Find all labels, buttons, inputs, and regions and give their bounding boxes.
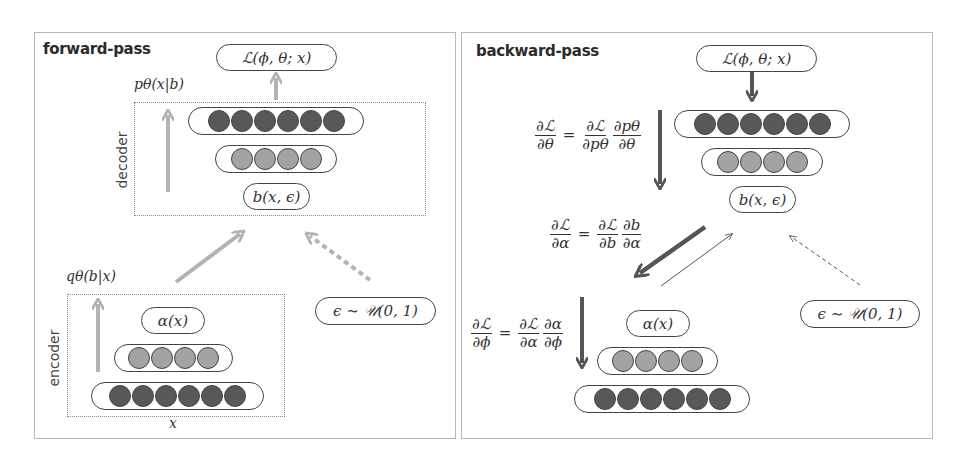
arrows-layer bbox=[0, 0, 967, 464]
gradient-alpha-arrow-icon bbox=[640, 227, 705, 273]
noise-to-latent-arrow-icon bbox=[310, 236, 370, 280]
forward-thin-arrow-icon bbox=[661, 234, 732, 286]
encoder-to-latent-arrow-icon bbox=[176, 234, 240, 282]
noise-thin-dashed-arrow-icon bbox=[790, 236, 860, 285]
